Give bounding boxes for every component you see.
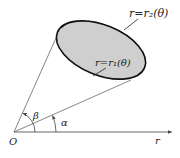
region-ellipse [48,9,154,91]
beta-label: β [32,110,39,121]
outer-curve-label: r=r₂(θ) [129,7,168,20]
ray-alpha [14,80,131,132]
polar-region-diagram: r=r₂(θ) r=r₁(θ) β α O r [0,0,180,158]
origin-label: O [9,136,17,147]
leader-outer [124,19,138,30]
alpha-label: α [61,117,68,128]
angle-arc-alpha [53,116,57,133]
axis-label: r [155,135,161,146]
inner-curve-label: r=r₁(θ) [95,57,131,68]
